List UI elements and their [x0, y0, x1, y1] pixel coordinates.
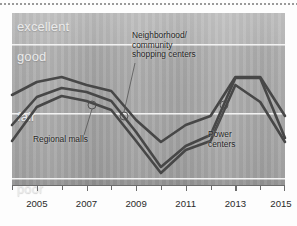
x-axis-line [12, 185, 285, 186]
top-dotted-rule [0, 3, 297, 5]
x-axis-label-2015: 2015 [270, 198, 291, 209]
x-axis-tick [87, 186, 88, 191]
chart-figure: excellent good fair poor Neighborhood/ c… [0, 0, 297, 226]
x-axis-tick [12, 186, 13, 190]
x-axis-label-2013: 2013 [225, 198, 246, 209]
x-axis-tick [186, 186, 187, 191]
leader-line-neighborhood [124, 63, 135, 112]
x-axis-tick [235, 186, 236, 191]
annotation-power-centers: Power centers [208, 130, 235, 149]
x-axis-label-2005: 2005 [26, 198, 47, 209]
annotation-regional-malls: Regional malls [33, 135, 88, 145]
x-axis-tick [211, 186, 212, 190]
x-axis-tick [161, 186, 162, 190]
x-axis-tick [136, 186, 137, 191]
x-axis [12, 185, 285, 197]
series-line-power-centers [12, 77, 285, 142]
series-line-regional-malls [12, 85, 285, 173]
x-axis-tick [37, 186, 38, 191]
series-lines [12, 77, 285, 173]
x-axis-tick [62, 186, 63, 190]
leader-line-regional-malls [84, 109, 92, 135]
x-axis-label-2011: 2011 [175, 198, 196, 209]
x-axis-label-2009: 2009 [125, 198, 146, 209]
annotation-neighborhood-community: Neighborhood/ community shopping centers [132, 31, 196, 60]
x-axis-tick [284, 186, 285, 191]
x-axis-label-2007: 2007 [76, 198, 97, 209]
x-axis-tick [111, 186, 112, 190]
plot-area: excellent good fair poor Neighborhood/ c… [12, 13, 285, 185]
x-axis-tick [260, 186, 261, 190]
